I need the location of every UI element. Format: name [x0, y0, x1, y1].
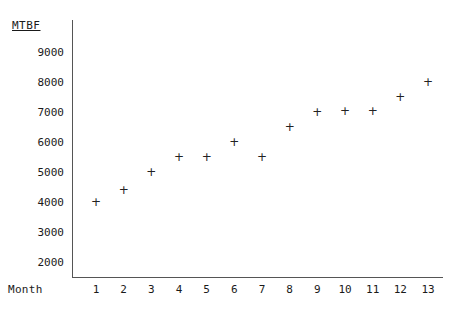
scatter-points-layer: +++++++++++++	[0, 0, 453, 318]
data-point-marker: +	[368, 105, 378, 117]
data-point-marker: +	[91, 196, 101, 208]
data-point-marker: +	[119, 184, 129, 196]
data-point-marker: +	[257, 151, 267, 163]
data-point-marker: +	[202, 151, 212, 163]
data-point-marker: +	[174, 151, 184, 163]
data-point-marker: +	[312, 106, 322, 118]
chart-canvas: MTBF Month 90008000700060005000400030002…	[0, 0, 453, 318]
data-point-marker: +	[340, 105, 350, 117]
data-point-marker: +	[146, 166, 156, 178]
data-point-marker: +	[229, 136, 239, 148]
data-point-marker: +	[423, 76, 433, 88]
data-point-marker: +	[395, 91, 405, 103]
data-point-marker: +	[285, 121, 295, 133]
